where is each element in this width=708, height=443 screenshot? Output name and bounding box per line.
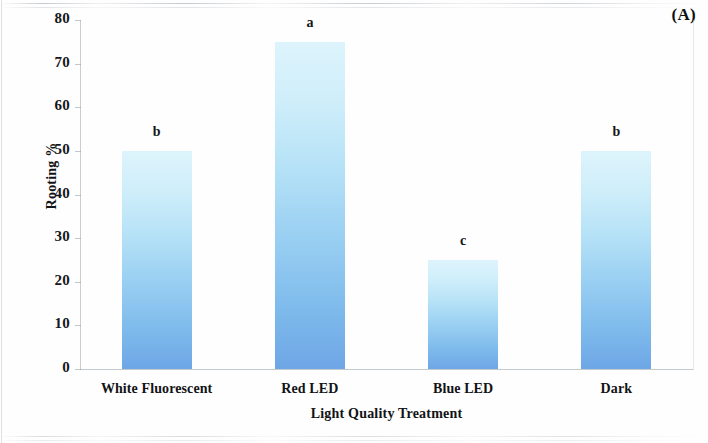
y-axis-tick-label: 10 [30, 315, 70, 332]
bar-significance-letter: a [280, 15, 340, 31]
y-axis-tick [75, 151, 81, 152]
scan-artifact-line [0, 7, 708, 8]
y-axis-tick [75, 64, 81, 65]
bar [122, 151, 192, 369]
bar-significance-letter: c [433, 233, 493, 249]
y-axis-tick-label: 20 [30, 272, 70, 289]
bar [581, 151, 651, 369]
figure-canvas: (A) Rooting % 01020304050607080 Light Qu… [0, 0, 708, 443]
scan-artifact-line [0, 440, 708, 441]
bar-significance-letter: b [586, 124, 646, 140]
bar-significance-letter: b [127, 124, 187, 140]
y-axis-tick-label: 40 [30, 185, 70, 202]
y-axis-tick [75, 195, 81, 196]
y-axis-tick-label: 60 [30, 97, 70, 114]
y-axis-tick [75, 238, 81, 239]
y-axis-tick-label: 50 [30, 141, 70, 158]
y-axis-tick [75, 369, 81, 370]
plot-area [80, 20, 693, 369]
y-axis-tick [75, 282, 81, 283]
y-axis-tick-group: 01020304050607080 [28, 0, 70, 443]
scan-artifact-line [0, 3, 708, 4]
bar [275, 42, 345, 369]
y-axis-tick [75, 325, 81, 326]
y-axis-tick-label: 0 [30, 359, 70, 376]
scan-edge-line [1, 0, 2, 443]
scan-artifact-line [0, 436, 708, 437]
y-axis-tick-label: 30 [30, 228, 70, 245]
plot-right-border [693, 20, 694, 370]
y-axis-tick-label: 80 [30, 10, 70, 27]
y-axis-tick-label: 70 [30, 54, 70, 71]
y-axis-tick [75, 107, 81, 108]
y-axis-tick [75, 20, 81, 21]
x-axis-category-label: Dark [526, 381, 706, 397]
x-axis-line [80, 369, 693, 370]
x-axis-title: Light Quality Treatment [80, 406, 693, 422]
bar [428, 260, 498, 369]
